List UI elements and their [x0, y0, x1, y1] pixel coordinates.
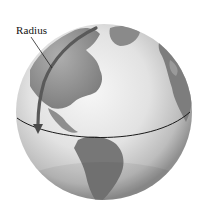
globe-diagram: Radius [0, 0, 199, 209]
radius-label: Radius [16, 24, 47, 36]
